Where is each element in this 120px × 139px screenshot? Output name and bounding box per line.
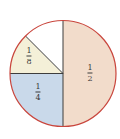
- numerator: 1: [35, 83, 40, 91]
- denominator: 4: [35, 94, 40, 102]
- denominator: 2: [87, 75, 92, 83]
- label-eighth: 1 8: [26, 47, 31, 66]
- denominator: 8: [26, 58, 31, 66]
- pie-svg: [0, 0, 120, 139]
- numerator: 1: [87, 64, 92, 72]
- label-quarter: 1 4: [35, 83, 40, 102]
- numerator: 1: [26, 47, 31, 55]
- label-half: 1 2: [87, 64, 92, 83]
- fraction-pie-chart: 1 2 1 4 1 8: [0, 0, 120, 139]
